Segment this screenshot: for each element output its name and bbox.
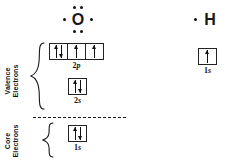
lewis-dot-oxygen-top-right xyxy=(80,6,83,9)
shell-label-core-line2: Electrons xyxy=(12,120,20,162)
orbital-label-o-1s: 1s xyxy=(68,143,87,152)
orbital-label-l: s xyxy=(208,66,211,75)
lewis-structure-hydrogen: H xyxy=(193,5,221,35)
orbital-label-l: s xyxy=(78,96,81,105)
brace-valence-electrons xyxy=(29,42,47,110)
electron-pair xyxy=(86,44,103,59)
orbital-boxes-o-1s xyxy=(68,125,87,142)
orbital-boxes-o-2s xyxy=(68,78,87,95)
electron-pair xyxy=(68,44,85,59)
shell-label-valence-line2: Electrons xyxy=(12,50,20,112)
electron-arrow-up xyxy=(74,45,79,58)
orbital-group-o-1s: 1s xyxy=(68,125,87,152)
valence-core-divider xyxy=(33,117,126,118)
orbital-label-l: s xyxy=(78,143,81,152)
orbital-box xyxy=(198,48,217,65)
electron-pair xyxy=(50,44,67,59)
electron-pair xyxy=(199,49,216,64)
electron-pair xyxy=(69,126,86,141)
electron-arrow-down xyxy=(78,127,83,140)
orbital-box xyxy=(68,125,87,142)
orbital-label-l: p xyxy=(77,61,81,70)
lewis-structure-oxygen: O xyxy=(62,5,94,35)
orbital-box xyxy=(67,43,86,60)
electron-arrow-up xyxy=(205,50,210,63)
orbital-label-o-2p: 2p xyxy=(49,61,104,70)
orbital-group-o-2s: 2s xyxy=(68,78,87,105)
brace-core-electrons xyxy=(41,122,55,158)
orbital-label-o-2s: 2s xyxy=(68,96,87,105)
orbital-box xyxy=(68,78,87,95)
lewis-dot-oxygen-right xyxy=(90,18,93,21)
electron-arrow-down xyxy=(78,80,83,93)
orbital-boxes-h-1s xyxy=(198,48,217,65)
orbital-boxes-o-2p xyxy=(49,43,104,60)
lewis-dot-oxygen-bottom-left xyxy=(73,30,76,33)
orbital-box xyxy=(49,43,68,60)
lewis-dot-hydrogen-left xyxy=(194,18,197,21)
shell-label-core: Core Electrons xyxy=(4,120,20,162)
shell-label-valence: Valence Electrons xyxy=(4,50,20,112)
electron-arrow-up xyxy=(92,45,97,58)
shell-label-core-line1: Core xyxy=(4,120,12,162)
electron-pair xyxy=(69,79,86,94)
orbital-label-h-1s: 1s xyxy=(198,66,217,75)
lewis-symbol-hydrogen: H xyxy=(201,12,219,28)
lewis-dot-oxygen-top-left xyxy=(73,6,76,9)
electron-arrow-down xyxy=(59,45,64,58)
orbital-group-o-2p: 2p xyxy=(49,43,104,70)
shell-label-valence-line1: Valence xyxy=(4,50,12,112)
lewis-dot-oxygen-bottom-right xyxy=(80,30,83,33)
orbital-group-h-1s: 1s xyxy=(198,48,217,75)
lewis-dot-oxygen-left xyxy=(63,18,66,21)
orbital-diagram-page: { "diagram": { "title": "Oxygen and hydr… xyxy=(0,0,251,168)
orbital-box xyxy=(85,43,104,60)
